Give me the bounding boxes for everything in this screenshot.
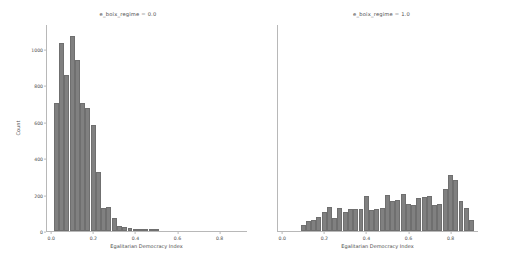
x-tick-mark bbox=[219, 232, 220, 234]
x-tick-label: 0.0 bbox=[48, 236, 55, 241]
histogram-bar bbox=[306, 221, 311, 231]
facet-panel-regime-1: e_boix_regime = 1.0 0.00.20.40.60.8 Egal… bbox=[256, 0, 507, 266]
histogram-bar bbox=[385, 195, 390, 231]
y-tick-mark bbox=[44, 232, 46, 233]
histogram-bar bbox=[380, 208, 385, 231]
x-tick-mark bbox=[450, 232, 451, 234]
x-tick-label: 0.8 bbox=[216, 236, 223, 241]
histogram-bar bbox=[143, 229, 148, 231]
histogram-bar bbox=[112, 218, 117, 231]
histogram-bar bbox=[80, 103, 85, 231]
histogram-bar bbox=[128, 228, 133, 231]
histogram-bar bbox=[106, 207, 111, 231]
histogram-bar bbox=[353, 209, 358, 231]
histogram-bar bbox=[401, 194, 406, 231]
histogram-bar bbox=[327, 207, 332, 231]
x-tick-label: 0.0 bbox=[279, 236, 286, 241]
histogram-bar bbox=[437, 204, 442, 231]
plot-area-left: 02004006008001000 0.00.20.40.60.8 Egalit… bbox=[46, 25, 247, 232]
x-tick-mark bbox=[366, 232, 367, 234]
y-tick-label: 800 bbox=[34, 84, 43, 89]
x-tick-label: 0.2 bbox=[90, 236, 97, 241]
histogram-bar bbox=[369, 210, 374, 231]
y-axis-label: Count bbox=[15, 121, 21, 136]
histogram-bar bbox=[406, 204, 411, 231]
x-tick-mark bbox=[135, 232, 136, 234]
histogram-bar bbox=[359, 209, 364, 231]
histogram-bar bbox=[343, 212, 348, 231]
histogram-figure: e_boix_regime = 0.0 02004006008001000 0.… bbox=[0, 0, 507, 266]
facet-panel-regime-0: e_boix_regime = 0.0 02004006008001000 0.… bbox=[0, 0, 256, 266]
y-tick-mark bbox=[44, 86, 46, 87]
histogram-bar bbox=[464, 208, 469, 231]
histogram-bar bbox=[311, 220, 316, 231]
histogram-bar bbox=[422, 197, 427, 231]
histogram-bar bbox=[332, 218, 337, 231]
x-tick-label: 0.8 bbox=[447, 236, 454, 241]
x-axis-spine-left bbox=[46, 231, 247, 232]
histogram-bar bbox=[427, 196, 432, 231]
x-tick-mark bbox=[177, 232, 178, 234]
x-axis-spine-right bbox=[277, 231, 478, 232]
y-tick-mark bbox=[44, 159, 46, 160]
histogram-bar bbox=[316, 217, 321, 231]
y-tick-mark bbox=[44, 122, 46, 123]
y-tick-mark bbox=[44, 195, 46, 196]
histogram-bar bbox=[411, 205, 416, 231]
y-tick-label: 600 bbox=[34, 120, 43, 125]
histogram-bar bbox=[64, 75, 69, 231]
x-tick-label: 0.4 bbox=[132, 236, 139, 241]
x-tick-label: 0.2 bbox=[321, 236, 328, 241]
x-tick-label: 0.6 bbox=[405, 236, 412, 241]
x-tick-label: 0.4 bbox=[363, 236, 370, 241]
histogram-bar bbox=[453, 180, 458, 231]
histogram-bar bbox=[75, 60, 80, 231]
histogram-bar bbox=[416, 198, 421, 231]
histogram-bar bbox=[122, 227, 127, 231]
histogram-bar bbox=[96, 172, 101, 231]
histogram-bar bbox=[459, 201, 464, 231]
x-tick-mark bbox=[324, 232, 325, 234]
histogram-bar bbox=[348, 209, 353, 231]
histogram-bar bbox=[432, 205, 437, 231]
histogram-bar bbox=[322, 212, 327, 231]
histogram-bar bbox=[85, 108, 90, 231]
histogram-bar bbox=[469, 220, 474, 231]
histogram-bar bbox=[101, 208, 106, 231]
y-tick-label: 1000 bbox=[31, 47, 43, 52]
histogram-bar bbox=[70, 36, 75, 231]
histogram-bars-left bbox=[47, 25, 247, 231]
x-axis-label-left: Egalitarian Democracy Index bbox=[46, 243, 247, 249]
histogram-bar bbox=[149, 229, 154, 231]
histogram-bar bbox=[91, 125, 96, 231]
histogram-bar bbox=[337, 208, 342, 231]
histogram-bar bbox=[154, 229, 159, 231]
facet-title-left: e_boix_regime = 0.0 bbox=[0, 11, 256, 17]
y-tick-label: 400 bbox=[34, 157, 43, 162]
histogram-bar bbox=[133, 229, 138, 231]
x-axis-label-right: Egalitarian Democracy Index bbox=[277, 243, 478, 249]
y-tick-label: 200 bbox=[34, 193, 43, 198]
y-tick-label: 0 bbox=[40, 230, 43, 235]
x-tick-mark bbox=[408, 232, 409, 234]
histogram-bar bbox=[374, 209, 379, 231]
histogram-bar bbox=[59, 43, 64, 231]
histogram-bar bbox=[390, 201, 395, 231]
histogram-bar bbox=[443, 189, 448, 231]
plot-area-right: 0.00.20.40.60.8 Egalitarian Democracy In… bbox=[277, 25, 478, 232]
histogram-bar bbox=[54, 103, 59, 231]
histogram-bar bbox=[448, 175, 453, 232]
x-tick-label: 0.6 bbox=[174, 236, 181, 241]
x-tick-mark bbox=[93, 232, 94, 234]
histogram-bar bbox=[395, 200, 400, 231]
x-tick-mark bbox=[51, 232, 52, 234]
histogram-bar bbox=[117, 226, 122, 231]
facet-title-right: e_boix_regime = 1.0 bbox=[256, 11, 507, 17]
histogram-bar bbox=[138, 229, 143, 231]
y-tick-mark bbox=[44, 49, 46, 50]
x-tick-mark bbox=[282, 232, 283, 234]
histogram-bar bbox=[301, 225, 306, 231]
histogram-bars-right bbox=[278, 25, 478, 231]
histogram-bar bbox=[364, 196, 369, 231]
